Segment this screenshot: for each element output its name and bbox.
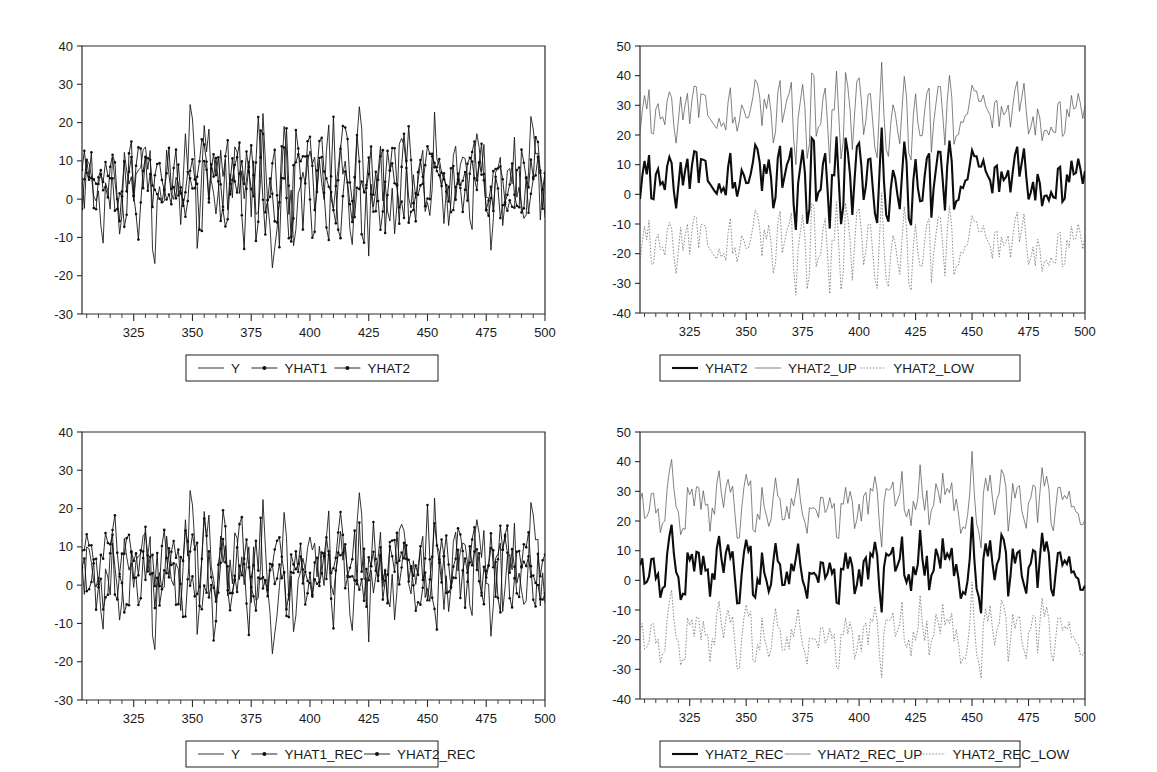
x-axis: 325350375400425450475500 <box>87 314 556 340</box>
y-tick-label: 50 <box>617 425 631 440</box>
y-axis: 50403020100-10-20-30-40 <box>612 425 640 707</box>
y-tick-label: 20 <box>59 501 73 516</box>
x-tick-label: 425 <box>905 710 927 725</box>
y-tick-label: -10 <box>612 217 631 232</box>
y-tick-label: 0 <box>624 573 631 588</box>
y-tick-label: -10 <box>54 616 73 631</box>
data-area <box>81 105 547 268</box>
legend-label: YHAT2_LOW <box>893 361 974 376</box>
plot-frame <box>82 432 545 700</box>
legend-label: YHAT2_REC <box>705 747 784 762</box>
x-tick-label: 375 <box>240 325 262 340</box>
plot-svg: 50403020100-10-20-30-4032535037540042545… <box>580 386 1157 772</box>
x-tick-label: 400 <box>848 324 870 339</box>
legend-marker-swatch <box>375 752 379 756</box>
x-tick-label: 500 <box>1074 324 1096 339</box>
x-tick-label: 325 <box>123 711 145 726</box>
x-tick-label: 350 <box>735 324 757 339</box>
legend-label: YHAT2_REC_UP <box>818 747 923 762</box>
x-tick-label: 350 <box>735 710 757 725</box>
y-tick-label: -30 <box>612 662 631 677</box>
y-axis: 403020100-10-20-30 <box>54 39 82 322</box>
y-tick-label: -20 <box>612 632 631 647</box>
x-tick-label: 450 <box>417 325 439 340</box>
plot-svg: 403020100-10-20-303253503754004254504755… <box>0 386 580 772</box>
series-line <box>640 517 1085 614</box>
x-tick-label: 475 <box>475 711 497 726</box>
legend-label: YHAT2 <box>705 361 748 376</box>
chart-legend: YHAT2YHAT2_UPYHAT2_LOW <box>660 355 1020 381</box>
chart-legend: YYHAT1_RECYHAT2_REC <box>186 741 476 767</box>
y-tick-label: 30 <box>617 484 631 499</box>
x-tick-label: 475 <box>1018 324 1040 339</box>
y-tick-label: 0 <box>66 192 73 207</box>
series-line <box>82 491 545 654</box>
x-tick-label: 375 <box>792 710 814 725</box>
x-tick-label: 425 <box>905 324 927 339</box>
plot-svg: 50403020100-10-20-30-4032535037540042545… <box>580 0 1157 386</box>
y-tick-label: 30 <box>59 463 73 478</box>
series-line <box>640 127 1085 229</box>
data-area <box>640 451 1085 678</box>
legend-label: YHAT2_REC <box>397 747 476 762</box>
y-tick-label: 10 <box>59 153 73 168</box>
legend-label: Y <box>231 361 240 376</box>
y-tick-label: 30 <box>59 77 73 92</box>
x-tick-label: 425 <box>358 711 380 726</box>
y-tick-label: 40 <box>59 39 73 54</box>
figure-page: 403020100-10-20-303253503754004254504755… <box>0 0 1157 772</box>
y-tick-label: -10 <box>612 603 631 618</box>
series-line <box>640 451 1085 548</box>
legend-label: YHAT1 <box>284 361 327 376</box>
plot-svg: 403020100-10-20-303253503754004254504755… <box>0 0 580 386</box>
legend-marker-swatch <box>345 366 349 370</box>
y-tick-label: 40 <box>617 454 631 469</box>
y-tick-label: 50 <box>617 39 631 54</box>
x-axis: 325350375400425450475500 <box>645 313 1096 339</box>
x-tick-label: 350 <box>182 711 204 726</box>
x-tick-label: 400 <box>848 710 870 725</box>
y-tick-label: -30 <box>54 693 73 708</box>
y-tick-label: 0 <box>66 578 73 593</box>
y-tick-label: -30 <box>54 307 73 322</box>
x-tick-label: 325 <box>679 710 701 725</box>
chart-legend: YYHAT1YHAT2 <box>186 355 438 381</box>
chart-panel-top-right: 50403020100-10-20-30-4032535037540042545… <box>580 0 1157 386</box>
legend-label: Y <box>231 747 240 762</box>
y-tick-label: 10 <box>59 539 73 554</box>
y-tick-label: 20 <box>59 115 73 130</box>
x-tick-label: 450 <box>417 711 439 726</box>
y-tick-label: 0 <box>624 187 631 202</box>
legend-marker-swatch <box>262 752 266 756</box>
x-tick-label: 325 <box>123 325 145 340</box>
chart-panel-top-left: 403020100-10-20-303253503754004254504755… <box>0 0 580 386</box>
chart-legend: YHAT2_RECYHAT2_REC_UPYHAT2_REC_LOW <box>660 741 1069 767</box>
x-axis: 325350375400425450475500 <box>87 700 556 726</box>
y-tick-label: 30 <box>617 98 631 113</box>
x-tick-label: 400 <box>299 711 321 726</box>
legend-label: YHAT1_REC <box>284 747 363 762</box>
x-tick-label: 450 <box>961 324 983 339</box>
legend-label: YHAT2 <box>367 361 410 376</box>
legend-label: YHAT2_UP <box>788 361 857 376</box>
data-area <box>81 491 547 654</box>
series-line <box>82 505 545 630</box>
x-tick-label: 325 <box>679 324 701 339</box>
y-tick-label: 10 <box>617 543 631 558</box>
x-tick-label: 475 <box>1018 710 1040 725</box>
y-tick-label: 40 <box>617 68 631 83</box>
legend-marker-swatch <box>262 366 266 370</box>
legend-label: YHAT2_REC_LOW <box>952 747 1069 762</box>
chart-panel-bottom-right: 50403020100-10-20-30-4032535037540042545… <box>580 386 1157 772</box>
chart-panel-bottom-left: 403020100-10-20-303253503754004254504755… <box>0 386 580 772</box>
y-axis: 50403020100-10-20-30-40 <box>612 39 640 321</box>
x-tick-label: 500 <box>534 711 556 726</box>
y-tick-label: 10 <box>617 157 631 172</box>
x-tick-label: 375 <box>792 324 814 339</box>
y-tick-label: 20 <box>617 514 631 529</box>
x-tick-label: 425 <box>358 325 380 340</box>
y-tick-label: -40 <box>612 692 631 707</box>
x-tick-label: 400 <box>299 325 321 340</box>
y-tick-label: -20 <box>54 654 73 669</box>
y-tick-label: -20 <box>612 246 631 261</box>
